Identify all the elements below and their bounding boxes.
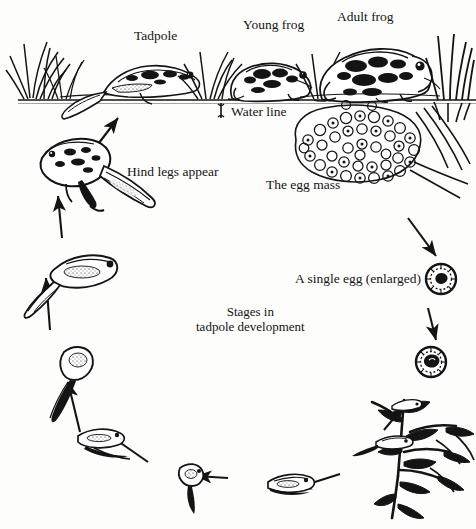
water-line-tick [218, 103, 224, 118]
arrow-egg-to-plant [384, 406, 404, 430]
label-single-egg: A single egg (enlarged) [295, 271, 421, 286]
hatchling-tadpole-b [392, 400, 422, 411]
tadpole-with-tail [24, 255, 117, 318]
frog-life-cycle-diagram: Tadpole Young frog Adult frog Water line… [0, 0, 476, 529]
young-frog [228, 63, 312, 101]
early-tadpole [50, 347, 93, 422]
reeds-right-lower [434, 102, 470, 122]
arrow-to-tadpole-mid [68, 382, 80, 432]
arrow-to-tadpole-small [102, 430, 148, 462]
bank-edge-right [300, 94, 440, 97]
label-adult-frog: Adult frog [337, 9, 394, 24]
label-hind-legs-appear: Hind legs appear [127, 164, 218, 179]
arrow-to-hatchling-mid [196, 476, 228, 478]
label-young-frog: Young frog [243, 17, 304, 32]
label-tadpole: Tadpole [134, 28, 177, 43]
tadpole-on-bank [62, 66, 200, 119]
diagram-artwork [0, 0, 476, 529]
grass-tuft-left-2 [44, 56, 84, 99]
caption-stages-in-tadpole-development: Stages in tadpole development [196, 305, 305, 334]
hatchling-right [268, 474, 314, 495]
cycle-arrows [46, 118, 436, 488]
reeds-right [426, 34, 474, 100]
grass-tuft-left [6, 42, 70, 99]
caption-line-1: Stages in [196, 305, 305, 320]
arrow-mass-to-egg [408, 218, 436, 256]
grass-tuft-middle [178, 52, 242, 99]
hatchling-tadpole-a [352, 436, 413, 456]
grass-tuft-right-mid [296, 52, 352, 99]
label-water-line: Water line [231, 104, 287, 119]
adult-frog [314, 49, 440, 102]
arrow-to-tadpole-large [46, 278, 50, 330]
arrow-to-hindlegs [58, 196, 62, 238]
arrow-to-pond [86, 118, 118, 160]
developing-egg [416, 347, 446, 377]
water-surface-line [18, 100, 476, 104]
aquatic-plant-with-hatchlings [352, 400, 474, 519]
single-egg-enlarged [426, 264, 456, 294]
caption-line-2: tadpole development [196, 320, 305, 335]
bank-edge-left [60, 95, 152, 97]
label-egg-mass: The egg mass [266, 177, 340, 192]
arrow-egg-to-egg2 [428, 308, 436, 340]
arrow-to-hatchling-left [296, 474, 340, 488]
tadpole-pair-left [78, 429, 130, 459]
tadpole-small-tail [179, 464, 203, 514]
